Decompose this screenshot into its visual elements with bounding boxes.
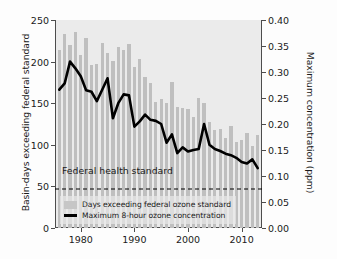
left-axis-tick: [51, 20, 55, 21]
line-swatch-icon: [64, 214, 77, 217]
legend-item-bars: Days exceeding federal ozone standard: [64, 199, 231, 210]
bar-swatch-icon: [64, 201, 77, 209]
ozone-trend-chart-figure: Basin-days exceeding federal standard Ma…: [0, 0, 337, 259]
left-axis-tick: [51, 186, 55, 187]
right-axis-tick-label: 0.05: [268, 197, 289, 208]
chart-legend: Days exceeding federal ozone standard Ma…: [60, 196, 236, 224]
left-axis-tick: [51, 103, 55, 104]
left-axis-tick-label: 150: [31, 98, 49, 109]
x-axis-tick-label: 1980: [69, 234, 93, 245]
x-axis-tick-label: 1990: [122, 234, 146, 245]
right-axis-tick-label: 0.15: [268, 145, 289, 156]
max-ozone-concentration-line: [59, 62, 257, 169]
y-axis-label-left: Basin-days exceeding federal standard: [20, 28, 31, 218]
legend-label-line: Maximum 8-hour ozone concentration: [82, 211, 225, 220]
legend-label-bars: Days exceeding federal ozone standard: [82, 200, 231, 209]
x-axis-tick-label: 2000: [176, 234, 200, 245]
left-axis-tick: [51, 62, 55, 63]
right-axis-tick-label: 0.40: [268, 15, 289, 26]
left-axis-tick-label: 50: [37, 181, 49, 192]
right-axis-tick-label: 0.00: [268, 223, 289, 234]
right-axis-tick: [262, 228, 266, 229]
right-axis-tick-label: 0.35: [268, 41, 289, 52]
x-axis-tick-label: 2010: [230, 234, 254, 245]
left-axis-tick: [51, 145, 55, 146]
x-axis-tick: [134, 228, 135, 232]
right-axis-tick: [262, 124, 266, 125]
right-axis-tick: [262, 150, 266, 151]
right-axis-tick: [262, 98, 266, 99]
right-axis-tick: [262, 20, 266, 21]
right-axis-tick-label: 0.10: [268, 171, 289, 182]
plot-area: 050100150200250 0.000.050.100.150.200.25…: [55, 20, 262, 228]
left-axis-tick-label: 200: [31, 56, 49, 67]
right-axis-tick-label: 0.25: [268, 93, 289, 104]
right-axis-tick: [262, 202, 266, 203]
right-axis-tick: [262, 46, 266, 47]
x-axis-tick: [81, 228, 82, 232]
x-axis-tick: [188, 228, 189, 232]
left-axis-tick-label: 0: [43, 223, 49, 234]
left-axis-tick-label: 250: [31, 15, 49, 26]
federal-health-standard-annotation: Federal health standard: [62, 165, 173, 176]
right-axis-tick: [262, 176, 266, 177]
right-axis-tick-label: 0.20: [268, 119, 289, 130]
legend-item-line: Maximum 8-hour ozone concentration: [64, 210, 231, 221]
left-axis-tick: [51, 228, 55, 229]
y-axis-label-right: Maximum concentration (ppm): [305, 28, 316, 218]
left-axis-tick-label: 100: [31, 139, 49, 150]
x-axis-tick: [242, 228, 243, 232]
right-axis-tick: [262, 72, 266, 73]
right-axis-tick-label: 0.30: [268, 67, 289, 78]
